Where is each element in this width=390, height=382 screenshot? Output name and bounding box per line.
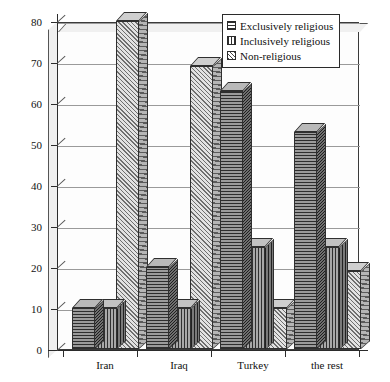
bar-front: [146, 267, 169, 349]
legend-item-label: Inclusively religious: [240, 35, 330, 47]
bar: [72, 308, 95, 349]
y-axis-tick-label: 60: [16, 99, 42, 109]
bar: [146, 267, 169, 349]
bar-side: [243, 83, 252, 349]
y-axis-tick-label: 10: [16, 304, 42, 314]
x-axis-tick-mark: [137, 350, 138, 357]
bar-front: [294, 132, 317, 349]
chart-legend: Exclusively religiousInclusively religio…: [222, 14, 340, 68]
bar-chart: 01020304050607080 IranIraqTurkeythe rest…: [0, 0, 390, 382]
x-axis-tick-mark: [359, 350, 360, 357]
legend-item-label: Exclusively religious: [240, 20, 333, 32]
legend-swatch-icon: [227, 51, 236, 60]
legend-item-label: Non-religious: [240, 50, 301, 62]
bar-side: [169, 259, 178, 349]
bar-front: [220, 91, 243, 349]
y-axis-tick-label: 0: [16, 345, 42, 355]
x-axis-category-label: the rest: [282, 359, 372, 372]
bar-side: [317, 124, 326, 349]
legend-swatch-icon: [227, 21, 236, 30]
y-axis-tick-label: 70: [16, 58, 42, 68]
x-axis-tick-mark: [285, 350, 286, 357]
y-axis-tick-label: 30: [16, 222, 42, 232]
legend-item: Inclusively religious: [227, 33, 333, 48]
bar-front: [72, 308, 95, 349]
y-axis-tick-label: 40: [16, 181, 42, 191]
bar-side: [265, 238, 274, 349]
plot-face: [57, 22, 359, 350]
legend-item: Non-religious: [227, 48, 333, 63]
y-axis-line: [57, 14, 58, 350]
bar-side: [361, 263, 370, 349]
bar-side: [95, 300, 104, 349]
y-axis-tick-label: 20: [16, 263, 42, 273]
bar-side: [117, 300, 126, 349]
bar: [220, 91, 243, 349]
bar-side: [339, 238, 348, 349]
x-axis-line: [48, 350, 368, 351]
legend-item: Exclusively religious: [227, 18, 333, 33]
x-axis-tick-mark: [211, 350, 212, 357]
y-axis-tick-label: 50: [16, 140, 42, 150]
y-axis-tick-label: 80: [16, 17, 42, 27]
bar-side: [191, 300, 200, 349]
x-axis-tick-mark: [63, 350, 64, 357]
bar: [294, 132, 317, 349]
legend-swatch-icon: [227, 36, 236, 45]
chart-3d-side-wall: [48, 22, 57, 358]
